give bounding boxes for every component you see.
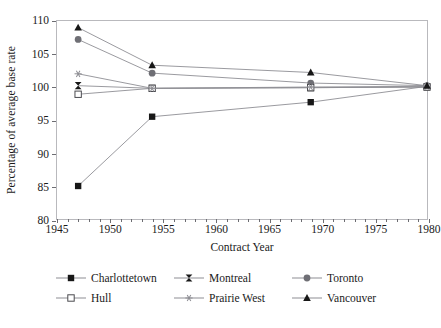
x-tick-mark (174, 219, 175, 222)
x-tick-mark (227, 219, 228, 222)
x-tick-mark (386, 219, 387, 222)
data-point-filled-square (149, 114, 155, 120)
chart-figure: Percentage of average base rate 80859095… (0, 0, 441, 328)
data-point-asterisk (185, 295, 192, 301)
legend-label: Hull (91, 292, 111, 304)
x-tick-mark (185, 219, 186, 222)
data-point-filled-square (68, 275, 74, 281)
data-point-filled-triangle (148, 61, 156, 68)
data-point-filled-circle (304, 275, 311, 282)
x-tick-label: 1955 (152, 224, 175, 236)
legend-marker (65, 272, 77, 284)
x-tick-mark (78, 219, 79, 222)
x-tick-mark (280, 219, 281, 222)
series-charlottetown (75, 83, 430, 189)
legend-label: Montreal (209, 272, 251, 284)
y-tick-label: 105 (32, 48, 49, 60)
series-vancouver (74, 24, 430, 89)
x-axis-title-text: Contract Year (210, 241, 273, 253)
legend-item-toronto[interactable]: Toronto (292, 272, 410, 284)
data-point-filled-triangle (74, 24, 82, 31)
legend-label: Toronto (327, 272, 363, 284)
legend-marker (301, 292, 313, 304)
series-line (78, 74, 427, 89)
x-tick-mark (100, 219, 101, 222)
series-line (78, 86, 427, 186)
data-point-filled-square (75, 183, 81, 189)
x-tick-mark (365, 219, 366, 222)
y-tick-mark (52, 187, 56, 188)
data-point-filled-triangle (303, 294, 311, 301)
y-tick-label: 100 (32, 81, 49, 93)
x-tick-mark (259, 219, 260, 222)
legend-marker (301, 272, 313, 284)
x-tick-mark (408, 219, 409, 222)
x-tick-mark (153, 219, 154, 222)
series-hull (75, 84, 430, 98)
x-tick-mark (238, 219, 239, 222)
y-tick-mark (52, 154, 56, 155)
data-point-bowtie (186, 274, 193, 281)
legend-key-filled-square-icon (56, 273, 86, 284)
x-tick-mark (355, 219, 356, 222)
x-axis-title: Contract Year (56, 241, 428, 253)
y-tick-mark (52, 54, 56, 55)
y-axis-title-text: Percentage of average base rate (5, 46, 17, 194)
y-tick-label: 95 (38, 115, 50, 127)
data-point-open-square (68, 295, 74, 301)
x-tick-mark (312, 219, 313, 222)
legend-key-asterisk-icon (174, 293, 204, 304)
legend-item-prairie-west[interactable]: Prairie West (174, 292, 292, 304)
legend-key-filled-triangle-icon (292, 293, 322, 304)
x-tick-label: 1970 (311, 224, 334, 236)
data-point-open-square (75, 91, 81, 97)
legend-marker (183, 292, 195, 304)
x-tick-label: 1945 (46, 224, 69, 236)
y-tick-mark (52, 87, 56, 88)
x-tick-mark (344, 219, 345, 222)
y-axis-title: Percentage of average base rate (2, 0, 20, 240)
x-tick-mark (301, 219, 302, 222)
legend-item-vancouver[interactable]: Vancouver (292, 292, 410, 304)
data-point-filled-circle (149, 70, 156, 77)
chart-legend: CharlottetownMontrealTorontoHullPrairie … (56, 272, 428, 304)
data-point-asterisk (75, 71, 82, 77)
series-line (78, 39, 427, 85)
legend-marker (65, 292, 77, 304)
series-canvas (57, 21, 427, 219)
x-tick-mark (333, 219, 334, 222)
y-tick-mark (52, 221, 56, 222)
x-tick-mark (418, 219, 419, 222)
legend-marker (183, 272, 195, 284)
x-tick-label: 1960 (205, 224, 228, 236)
x-tick-mark (206, 219, 207, 222)
legend-item-charlottetown[interactable]: Charlottetown (56, 272, 174, 284)
x-tick-mark (291, 219, 292, 222)
x-tick-mark (195, 219, 196, 222)
y-tick-mark (52, 121, 56, 122)
y-tick-label: 110 (32, 15, 49, 27)
data-point-filled-circle (75, 36, 82, 43)
legend-item-montreal[interactable]: Montreal (174, 272, 292, 284)
x-tick-mark (89, 219, 90, 222)
x-tick-mark (142, 219, 143, 222)
x-tick-label: 1980 (418, 224, 441, 236)
data-point-filled-square (308, 99, 314, 105)
y-tick-mark (52, 21, 56, 22)
legend-item-hull[interactable]: Hull (56, 292, 174, 304)
plot-area: 80859095100105110 1945195019551960196519… (56, 20, 428, 220)
x-tick-label: 1975 (364, 224, 387, 236)
legend-label: Charlottetown (91, 272, 157, 284)
x-tick-mark (248, 219, 249, 222)
x-tick-label: 1965 (258, 224, 281, 236)
legend-key-bowtie-icon (174, 273, 204, 284)
x-tick-label: 1950 (99, 224, 122, 236)
y-tick-label: 90 (38, 148, 50, 160)
legend-label: Prairie West (209, 292, 265, 304)
x-tick-mark (131, 219, 132, 222)
x-tick-mark (121, 219, 122, 222)
legend-label: Vancouver (327, 292, 376, 304)
legend-key-open-square-icon (56, 293, 86, 304)
series-toronto (75, 36, 431, 89)
x-tick-mark (397, 219, 398, 222)
